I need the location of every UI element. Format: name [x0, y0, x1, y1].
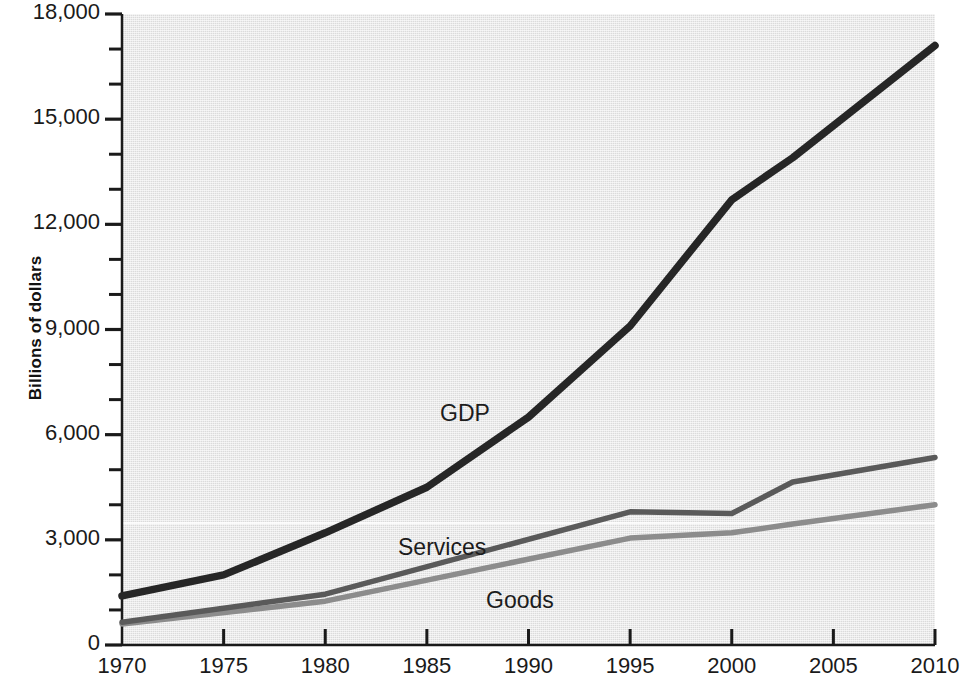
series-label-services: Services	[398, 536, 486, 559]
x-tick-label: 2010	[911, 655, 960, 677]
x-axis-ticks	[224, 629, 935, 645]
x-tick-label: 1980	[301, 655, 350, 677]
plot-area	[0, 0, 964, 687]
chart-figure: Billions of dollars 03,0006,0009,00012,0…	[0, 0, 964, 687]
x-axis-tick-labels: 197019751980198519901995200020052010	[0, 655, 964, 687]
x-tick-label: 1990	[504, 655, 553, 677]
x-tick-label: 1995	[606, 655, 655, 677]
series-label-gdp: GDP	[440, 402, 490, 425]
x-tick-label: 1985	[402, 655, 451, 677]
series-line-gdp	[122, 46, 935, 596]
x-tick-label: 2000	[707, 655, 756, 677]
x-tick-label: 1970	[98, 655, 147, 677]
series-label-goods: Goods	[486, 589, 554, 612]
axis-lines	[122, 14, 935, 645]
y-axis-ticks	[105, 14, 122, 645]
x-tick-label: 1975	[199, 655, 248, 677]
data-series-group	[122, 46, 935, 624]
x-tick-label: 2005	[809, 655, 858, 677]
